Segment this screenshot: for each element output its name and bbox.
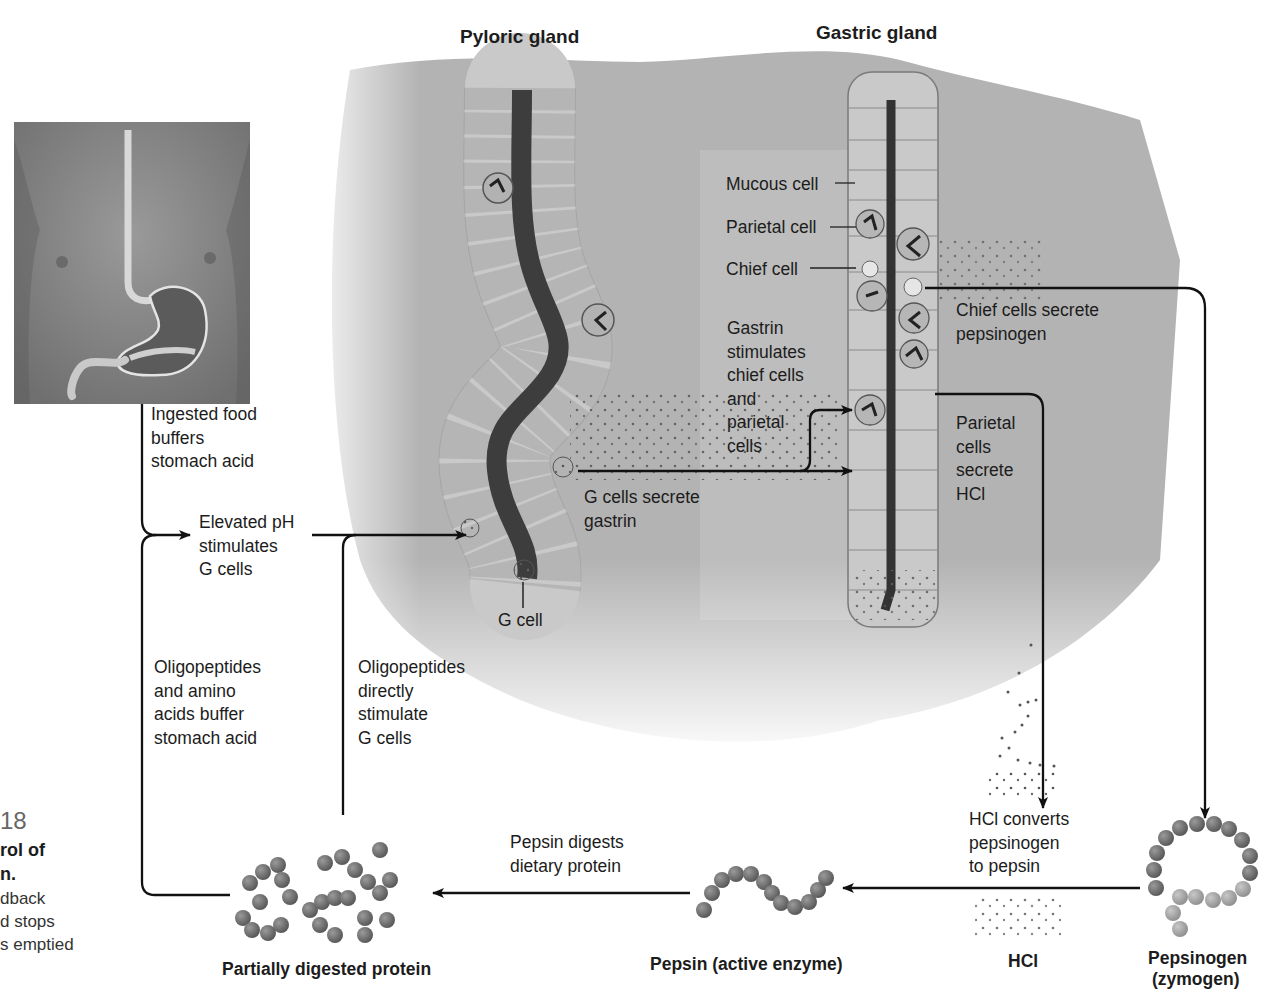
step-elevated-ph: Elevated pH stimulates G cells — [199, 511, 294, 582]
step-gastrin-stimulates: Gastrin stimulates chief cells and parie… — [727, 317, 806, 458]
caption-title-line2: n. — [0, 862, 16, 887]
step-oligopeptides-direct: Oligopeptides directly stimulate G cells — [358, 656, 465, 750]
parietal-cell-label: Parietal cell — [726, 216, 816, 240]
caption-body-line2: d stops — [0, 910, 55, 933]
caption-body-line1: dback — [0, 887, 45, 910]
pepsinogen-beads — [1146, 816, 1258, 937]
step-ingested-food: Ingested food buffers stomach acid — [151, 403, 257, 474]
gastric-gland-illustration — [848, 72, 938, 627]
pepsin-beads — [696, 866, 834, 918]
caption-title-line1: rol of — [0, 838, 45, 863]
chief-cell-label: Chief cell — [726, 258, 798, 282]
step-oligopeptides-buffer: Oligopeptides and amino acids buffer sto… — [154, 656, 261, 750]
partially-digested-protein-beads — [235, 842, 398, 943]
hcl-particles — [975, 895, 1065, 940]
pepsin-label: Pepsin (active enzyme) — [650, 953, 843, 975]
figure-number: 18 — [0, 808, 27, 834]
pepsinogen-label: Pepsinogen — [1148, 947, 1247, 969]
hcl-label: HCl — [1008, 950, 1038, 972]
mucous-cell-label: Mucous cell — [726, 173, 818, 197]
step-chief-cells-secrete: Chief cells secrete pepsinogen — [956, 299, 1099, 346]
step-pepsin-digests: Pepsin digests dietary protein — [510, 831, 624, 878]
step-parietal-cells-secrete: Parietal cells secrete HCl — [956, 412, 1015, 506]
torso-illustration — [14, 122, 250, 404]
pyloric-gland-title: Pyloric gland — [460, 26, 579, 48]
pepsinogen-particles — [935, 240, 1045, 300]
zymogen-label: (zymogen) — [1152, 968, 1240, 990]
partially-digested-protein-label: Partially digested protein — [222, 958, 431, 980]
caption-body-line3: s emptied — [0, 933, 74, 956]
g-cell-label: G cell — [498, 609, 543, 633]
step-g-cells-secrete-gastrin: G cells secrete gastrin — [584, 486, 700, 533]
step-hcl-converts: HCl converts pepsinogen to pepsin — [969, 808, 1069, 879]
gastric-gland-title: Gastric gland — [816, 22, 937, 44]
